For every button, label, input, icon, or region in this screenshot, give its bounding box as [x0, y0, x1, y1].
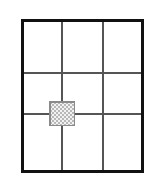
- diagram-svg: [0, 0, 155, 182]
- frame-interior-fill: [21, 19, 144, 173]
- hatched-square-fill: [49, 101, 75, 126]
- diagram-canvas: [0, 0, 155, 182]
- hatched-square-marker: [49, 101, 75, 126]
